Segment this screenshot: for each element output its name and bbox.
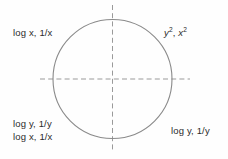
quadrant-label-top-left-text: log x, 1/x xyxy=(13,27,53,38)
quadrant-label-bottom-left-line-2: log x, 1/x xyxy=(13,131,53,144)
quadrant-label-bottom-left: log y, 1/y log x, 1/x xyxy=(13,118,53,143)
quadrant-label-bottom-right: log y, 1/y xyxy=(171,125,210,138)
quadrant-label-top-right: y2, x2 xyxy=(164,27,187,40)
diagram-canvas: log x, 1/x y2, x2 log y, 1/y log x, 1/x … xyxy=(0,0,228,159)
quadrant-label-bottom-right-text: log y, 1/y xyxy=(171,125,210,136)
quadrant-label-top-right-exp-2: 2 xyxy=(183,26,187,33)
quadrant-label-bottom-left-line-1: log y, 1/y xyxy=(13,118,53,131)
quadrant-label-top-left: log x, 1/x xyxy=(13,27,53,40)
